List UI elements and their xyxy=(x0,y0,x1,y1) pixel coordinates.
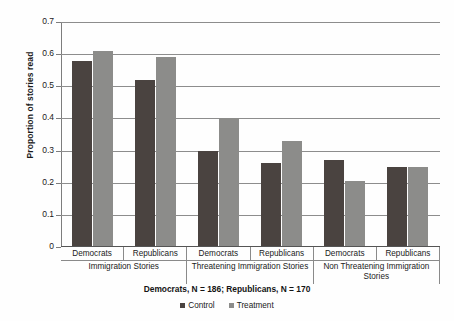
category-group: DemocratsRepublicansImmigration Stories xyxy=(61,247,187,284)
chart-legend: ControlTreatment xyxy=(0,301,454,310)
bar-control xyxy=(135,80,155,247)
category-group: DemocratsRepublicansThreatening Immigrat… xyxy=(187,247,313,284)
category-label: Democrats xyxy=(61,247,124,260)
legend-label: Control xyxy=(188,301,214,310)
bars-layer xyxy=(61,22,440,247)
legend-swatch-icon xyxy=(180,303,185,308)
category-supergroup-label: Immigration Stories xyxy=(61,260,186,274)
y-axis-tick-label: 0.6 xyxy=(23,48,54,58)
bar-treatment xyxy=(282,141,302,247)
bar-treatment xyxy=(408,167,428,247)
y-axis-tick-label: 0.2 xyxy=(23,177,54,187)
bar-control xyxy=(72,61,92,247)
bar-treatment xyxy=(219,118,239,247)
chart-caption: Democrats, N = 186; Republicans, N = 170 xyxy=(0,284,454,294)
bar-control xyxy=(261,163,281,247)
bar-control xyxy=(324,160,344,247)
category-label: Republicans xyxy=(124,247,186,260)
bar-control xyxy=(387,167,407,247)
category-supergroup-label: Threatening Immigration Stories xyxy=(187,260,312,274)
category-label: Democrats xyxy=(187,247,250,260)
bar-group xyxy=(61,22,124,247)
bar-treatment xyxy=(93,51,113,247)
y-axis-tick-label: 0.1 xyxy=(23,209,54,219)
bar-treatment xyxy=(156,57,176,247)
category-group: DemocratsRepublicansNon Threatening Immi… xyxy=(314,247,440,284)
y-axis-tick-label: 0.3 xyxy=(23,145,54,155)
bar-group xyxy=(187,22,250,247)
y-axis-tick-label: 0 xyxy=(23,241,54,251)
category-supergroup-label: Non Threatening Immigration Stories xyxy=(314,260,439,284)
bar-control xyxy=(198,151,218,247)
bar-chart: Proportion of stories read 0.70.60.50.40… xyxy=(0,0,454,321)
category-label: Democrats xyxy=(314,247,377,260)
category-label: Republicans xyxy=(251,247,313,260)
legend-item: Treatment xyxy=(229,301,274,310)
bar-group xyxy=(124,22,187,247)
legend-swatch-icon xyxy=(229,303,234,308)
bar-group xyxy=(251,22,314,247)
y-axis-tick-label: 0.5 xyxy=(23,80,54,90)
legend-label: Treatment xyxy=(237,301,274,310)
bar-group xyxy=(377,22,440,247)
y-axis-tick-label: 0.4 xyxy=(23,112,54,122)
category-label: Republicans xyxy=(377,247,439,260)
category-axis: DemocratsRepublicansImmigration StoriesD… xyxy=(61,247,440,284)
plot-area: 0.70.60.50.40.30.20.10 xyxy=(61,22,440,247)
y-axis-tick-label: 0.7 xyxy=(23,16,54,26)
legend-item: Control xyxy=(180,301,214,310)
bar-treatment xyxy=(345,181,365,247)
bar-group xyxy=(314,22,377,247)
